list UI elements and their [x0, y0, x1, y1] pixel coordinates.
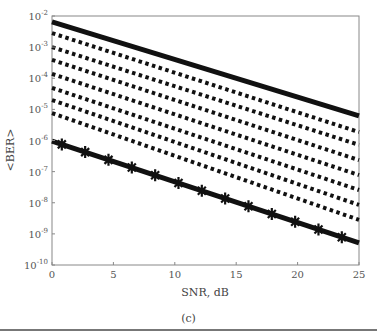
series-layer: [52, 22, 359, 243]
y-axis-label: <BER>: [4, 129, 17, 172]
y-tick-label: 10-2: [28, 9, 48, 22]
x-tick-label: 20: [291, 269, 304, 280]
series-line: [52, 74, 359, 175]
x-tick-label: 15: [230, 269, 243, 280]
x-tick-label: 5: [110, 269, 116, 280]
y-tick-label: 10-9: [28, 227, 48, 240]
series-line: [52, 60, 359, 160]
y-tick-label: 10-4: [28, 71, 48, 84]
y-tick-label: 10-8: [28, 196, 48, 209]
x-tick-label: 25: [353, 269, 366, 280]
x-tick-label: 0: [49, 269, 55, 280]
series-line: [52, 141, 359, 243]
figure-caption: (c): [0, 312, 377, 325]
y-tick-label: 10-6: [28, 134, 48, 147]
y-tick-label: 10-10: [24, 258, 48, 271]
series-line: [52, 22, 359, 116]
y-tick-label: 10-5: [28, 102, 48, 115]
y-tick-label: 10-3: [28, 40, 48, 53]
x-tick-label: 10: [168, 269, 181, 280]
ber-vs-snr-chart: 10-210-310-410-510-610-710-810-910-10 05…: [0, 0, 377, 333]
y-axis-ticks: 10-210-310-410-510-610-710-810-910-10: [24, 9, 55, 271]
bottom-rule: [0, 329, 377, 331]
x-axis-label: SNR, dB: [181, 286, 229, 299]
y-tick-label: 10-7: [28, 165, 48, 178]
